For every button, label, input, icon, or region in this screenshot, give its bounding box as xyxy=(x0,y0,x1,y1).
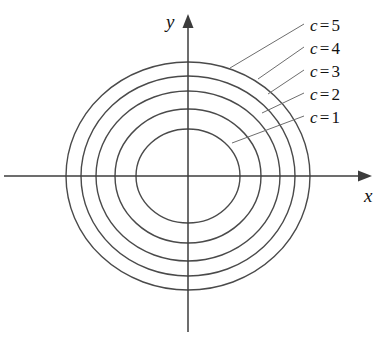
leader-line-c3 xyxy=(268,70,304,94)
contour-label-c3-var: c xyxy=(310,62,318,81)
x-axis-label: x xyxy=(364,186,373,205)
contour-label-c3-eq: = xyxy=(318,62,332,81)
contour-label-c4-var: c xyxy=(310,39,318,58)
contour-label-c3-value: 3 xyxy=(332,62,341,81)
contour-label-c2-eq: = xyxy=(318,85,332,104)
contour-label-c5-var: c xyxy=(310,16,318,35)
contour-label-c3: c=3 xyxy=(310,63,340,80)
y-axis-arrowhead xyxy=(183,14,194,28)
leader-line-c2 xyxy=(262,93,304,113)
contour-label-c5-eq: = xyxy=(318,16,332,35)
leader-line-c1 xyxy=(232,116,304,143)
contour-label-c1-value: 1 xyxy=(332,108,341,127)
contour-label-c4-value: 4 xyxy=(332,39,341,58)
contour-label-c1-var: c xyxy=(310,108,318,127)
contour-label-c2: c=2 xyxy=(310,86,340,103)
contour-label-c1-eq: = xyxy=(318,108,332,127)
axes-group xyxy=(4,28,358,332)
level-curves-figure: c=5 c=4 c=3 c=2 c=1 y x xyxy=(0,0,381,354)
contour-label-c2-value: 2 xyxy=(332,85,341,104)
y-axis-label: y xyxy=(166,12,175,31)
leader-lines xyxy=(230,24,304,143)
contour-label-c5: c=5 xyxy=(310,17,340,34)
x-axis-arrowhead xyxy=(358,171,372,182)
contour-label-c1: c=1 xyxy=(310,109,340,126)
contour-label-c4-eq: = xyxy=(318,39,332,58)
contour-label-c4: c=4 xyxy=(310,40,340,57)
contour-label-c2-var: c xyxy=(310,85,318,104)
contour-label-c5-value: 5 xyxy=(332,16,341,35)
leader-line-c5 xyxy=(230,24,304,68)
